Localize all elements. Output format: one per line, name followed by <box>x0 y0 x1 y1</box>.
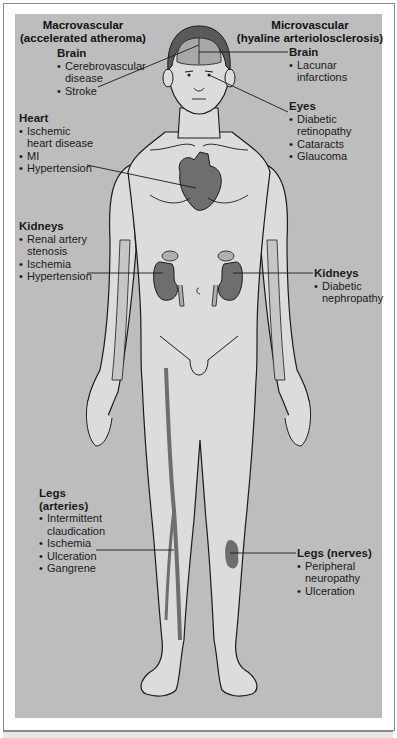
list-item: Ischemic heart disease <box>19 125 94 150</box>
macrovascular-heading: Macrovascular (accelerated atheroma) <box>18 19 148 45</box>
group-title: Heart <box>19 112 94 125</box>
left-kidney <box>154 262 178 300</box>
group-title: Legs (arteries) <box>39 487 109 512</box>
group-title: Kidneys <box>19 220 99 233</box>
macro-heart-group: Heart Ischemic heart disease MI Hyperten… <box>19 112 94 175</box>
macrovascular-heading-line2: (accelerated atheroma) <box>18 32 148 45</box>
list-item: Hypertension <box>19 162 94 175</box>
list-item: Diabetic retinopathy <box>289 113 359 138</box>
microvascular-heading-line1: Microvascular <box>235 19 385 32</box>
list-item: Cataracts <box>289 138 359 151</box>
macro-legs-group: Legs (arteries) Intermittent claudicatio… <box>39 487 109 575</box>
right-kidney <box>219 262 243 300</box>
list-item: Gangrene <box>39 562 109 575</box>
group-title: Kidneys <box>314 267 394 280</box>
microvascular-heading: Microvascular (hyaline arteriolosclerosi… <box>235 19 385 45</box>
list-item: Lacunar infarctions <box>289 59 369 84</box>
list-item: Renal artery stenosis <box>19 233 99 258</box>
list-item: Hypertension <box>19 270 99 283</box>
torso <box>128 132 270 696</box>
list-item: MI <box>19 150 94 163</box>
micro-kidneys-group: Kidneys Diabetic nephropathy <box>314 267 394 305</box>
micro-eyes-group: Eyes Diabetic retinopathy Cataracts Glau… <box>289 100 359 163</box>
list-item: Cerebrovascular disease <box>57 60 147 85</box>
list-item: Ischemia <box>39 537 109 550</box>
list-item: Intermittent claudication <box>39 512 109 537</box>
macro-brain-group: Brain Cerebrovascular disease Stroke <box>57 47 147 97</box>
list-item: Ulceration <box>297 585 382 598</box>
list-item: Diabetic nephropathy <box>314 280 394 305</box>
macro-kidneys-group: Kidneys Renal artery stenosis Ischemia H… <box>19 220 99 283</box>
neuropathy-patch <box>225 540 238 568</box>
micro-brain-group: Brain Lacunar infarctions <box>289 46 369 84</box>
microvascular-heading-line2: (hyaline arteriolosclerosis) <box>235 32 385 45</box>
group-title: Legs (nerves) <box>297 547 382 560</box>
list-item: Ischemia <box>19 258 99 271</box>
list-item: Glaucoma <box>289 150 359 163</box>
group-title: Brain <box>57 47 147 60</box>
list-item: Stroke <box>57 85 147 98</box>
group-title: Brain <box>289 46 369 59</box>
list-item: Ulceration <box>39 550 109 563</box>
group-title: Eyes <box>289 100 359 113</box>
list-item: Peripheral neuropathy <box>297 560 382 585</box>
micro-legs-group: Legs (nerves) Peripheral neuropathy Ulce… <box>297 547 382 597</box>
macrovascular-heading-line1: Macrovascular <box>18 19 148 32</box>
